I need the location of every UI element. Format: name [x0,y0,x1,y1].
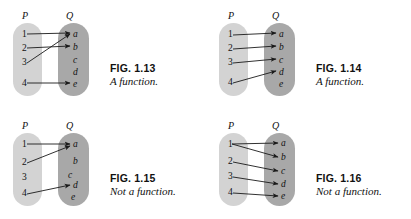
domain-element-4: 4 [22,78,27,88]
domain-element-2: 2 [228,156,233,166]
domain-element-2: 2 [228,43,233,53]
caption-1-15: FIG. 1.15 Not a function. [110,172,205,198]
codomain-element-d: d [73,67,78,77]
codomain-label-Q: Q [66,10,74,21]
codomain-element-e: e [71,192,75,202]
figure-1-16: P Q 1 2 3 4 a b c d e FIG. 1.16 Not a fu… [206,110,411,219]
figure-description: Not a function. [110,185,205,198]
domain-element-1: 1 [22,139,27,149]
codomain-element-e: e [279,79,283,89]
codomain-label-Q: Q [272,10,280,21]
caption-1-16: FIG. 1.16 Not a function. [316,172,411,198]
codomain-element-d: d [73,180,78,190]
mapping-diagram-1-16: P Q 1 2 3 4 a b c d e [216,116,311,216]
domain-element-3: 3 [228,171,233,181]
codomain-label-Q: Q [272,120,280,131]
figure-1-14: P Q 1 2 3 4 a b c d e FIG. 1.14 A functi… [206,0,411,109]
figure-label: FIG. 1.15 [110,172,205,184]
codomain-element-a: a [73,29,78,39]
figure-label: FIG. 1.16 [316,172,411,184]
domain-element-4: 4 [228,187,233,197]
figure-1-15: P Q 1 2 3 4 a b c d e FIG. 1.15 Not a fu… [0,110,205,219]
domain-element-3: 3 [22,172,27,182]
figure-label: FIG. 1.14 [316,62,411,74]
domain-element-4: 4 [228,77,233,87]
codomain-element-b: b [279,42,284,52]
codomain-element-a: a [279,29,284,39]
domain-label-P: P [227,10,234,21]
mapping-diagram-1-13: P Q 1 2 3 4 a b c d e [10,6,105,106]
codomain-label-Q: Q [66,120,74,131]
domain-element-2: 2 [22,157,27,167]
domain-element-1: 1 [228,29,233,39]
figure-description: A function. [110,75,205,88]
codomain-element-b: b [73,156,78,166]
codomain-element-b: b [281,152,286,162]
figure-1-13: P Q 1 2 3 4 a b c d e FIG. 1.13 A functi… [0,0,205,109]
domain-element-3: 3 [22,57,27,67]
domain-label-P: P [21,10,28,21]
codomain-element-d: d [281,179,286,189]
figure-label: FIG. 1.13 [110,62,205,74]
domain-label-P: P [227,120,234,131]
caption-1-14: FIG. 1.14 A function. [316,62,411,88]
codomain-element-b: b [73,42,78,52]
codomain-element-a: a [73,139,78,149]
codomain-element-e: e [281,191,285,201]
codomain-element-d: d [279,67,284,77]
codomain-element-a: a [281,138,286,148]
codomain-element-e: e [73,79,77,89]
domain-label-P: P [21,120,28,131]
domain-element-3: 3 [228,57,233,67]
mapping-diagram-1-15: P Q 1 2 3 4 a b c d e [10,116,105,216]
domain-oval [219,23,248,96]
figure-description: A function. [316,75,411,88]
domain-element-4: 4 [22,188,27,198]
mapping-diagram-1-14: P Q 1 2 3 4 a b c d e [216,6,311,106]
domain-element-1: 1 [22,29,27,39]
domain-element-2: 2 [22,43,27,53]
figure-description: Not a function. [316,185,411,198]
caption-1-13: FIG. 1.13 A function. [110,62,205,88]
